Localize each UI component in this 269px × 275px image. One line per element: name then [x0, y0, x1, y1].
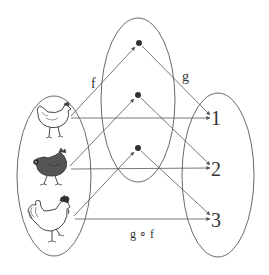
- composition-diagram: 1 2 3 f g g ∘ f: [0, 0, 269, 275]
- g-arrow-3: [141, 151, 210, 215]
- dark-hen-icon: [34, 148, 67, 185]
- g-label: g: [182, 69, 189, 84]
- f-arrow-3: [74, 152, 134, 216]
- g-arrow-2: [141, 98, 210, 165]
- middle-element-1: [136, 40, 142, 46]
- f-label: f: [91, 76, 96, 91]
- codomain-label-1: 1: [211, 107, 221, 129]
- codomain-label-3: 3: [211, 209, 221, 231]
- f-arrow-2: [70, 99, 134, 166]
- gof-arrow-2: [71, 168, 210, 169]
- codomain-label-2: 2: [211, 158, 221, 180]
- g-arrow-1: [142, 46, 210, 115]
- white-rooster-icon: [28, 196, 70, 243]
- composition-label: g ∘ f: [130, 227, 154, 241]
- middle-element-2: [135, 92, 141, 98]
- f-arrow-1: [71, 47, 135, 116]
- middle-element-3: [135, 145, 141, 151]
- white-hen-icon: [37, 102, 71, 138]
